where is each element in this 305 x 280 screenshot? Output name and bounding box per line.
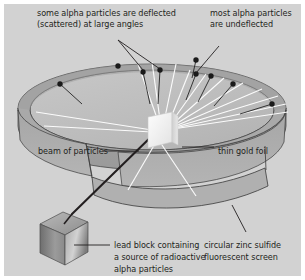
scattered-particle-dot	[140, 69, 145, 74]
gold-foil-face	[148, 112, 172, 148]
scattered-particle-dot	[230, 81, 235, 86]
scattered-particle-dot	[269, 101, 274, 106]
leader-screen	[232, 205, 246, 232]
scattered-particle-dot	[57, 81, 62, 86]
label-scattered-line2: (scattered) at large angles	[37, 19, 143, 30]
scattered-particle-dot	[193, 57, 198, 62]
gold-foil-edge	[172, 112, 178, 145]
label-beam-of-particles: beam of particles	[38, 146, 108, 157]
label-lead-block-line1: lead block containing	[114, 240, 199, 251]
diagram-canvas	[0, 0, 305, 280]
label-screen-line1: circular zinc sulfide	[204, 240, 281, 251]
scattered-particle-dot	[115, 63, 120, 68]
label-lead-block-line3: alpha particles	[114, 264, 173, 275]
label-screen-line2: fluorescent screen	[204, 252, 278, 263]
lead-block	[40, 212, 88, 265]
label-undeflected-line2: are undeflected	[210, 19, 273, 30]
scattered-particle-dot	[193, 71, 198, 76]
gold-foil	[148, 112, 178, 148]
label-lead-block-line2: a source of radioactive	[114, 252, 205, 263]
label-thin-gold-foil: thin gold foil	[218, 146, 268, 157]
diagram-page: some alpha particles are deflected (scat…	[0, 0, 305, 280]
scattered-particle-dot	[208, 73, 213, 78]
label-undeflected-line1: most alpha particles	[210, 8, 292, 19]
label-scattered-line1: some alpha particles are deflected	[37, 8, 176, 19]
